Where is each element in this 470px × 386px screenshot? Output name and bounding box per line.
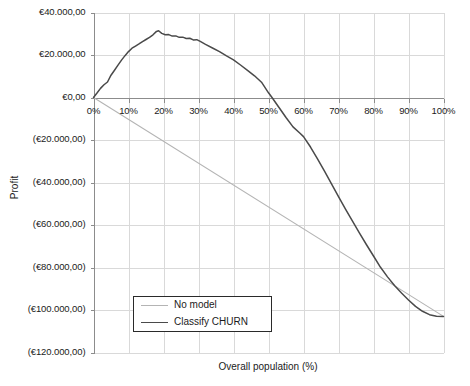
x-tick-label: 30%	[179, 105, 219, 116]
y-tick-label: (€60.000,00)	[0, 218, 86, 229]
x-tick-label: 50%	[249, 105, 289, 116]
x-tick-label: 100%	[424, 105, 464, 116]
x-tick-label: 80%	[354, 105, 394, 116]
legend-swatch-classify-churn	[141, 322, 168, 323]
y-axis-title: Profit	[9, 158, 20, 218]
legend-swatch-no-model	[141, 305, 168, 306]
x-tick-label: 90%	[389, 105, 429, 116]
series-line-no-model	[94, 98, 444, 317]
x-axis-title: Overall population (%)	[93, 361, 443, 372]
y-tick-label: (€120.000,00)	[0, 346, 86, 357]
x-tick-label: 60%	[284, 105, 324, 116]
x-tick-label: 70%	[319, 105, 359, 116]
x-tick-label: 40%	[214, 105, 254, 116]
y-tick-label: €20.000,00	[0, 48, 86, 59]
legend-item-no-model: No model	[134, 297, 271, 315]
x-tick-label: 10%	[109, 105, 149, 116]
y-tick-label: (€80.000,00)	[0, 261, 86, 272]
x-tick-label: 0%	[74, 105, 114, 116]
y-tick-label: €40.000,00	[0, 6, 86, 17]
y-tick-label: (€20.000,00)	[0, 133, 86, 144]
data-series-lines	[94, 31, 444, 317]
profit-lift-chart: €40.000,00€20.000,00€0,00(€20.000,00)(€4…	[0, 0, 470, 386]
y-tick-label: €0,00	[0, 91, 86, 102]
legend-item-classify-churn: Classify CHURN	[134, 314, 271, 332]
x-tick-label: 20%	[144, 105, 184, 116]
legend-label-no-model: No model	[174, 299, 217, 310]
y-tick-label: (€100.000,00)	[0, 303, 86, 314]
legend-label-classify-churn: Classify CHURN	[174, 316, 248, 327]
series-line-classify-churn	[94, 31, 444, 317]
chart-legend: No model Classify CHURN	[133, 296, 272, 332]
